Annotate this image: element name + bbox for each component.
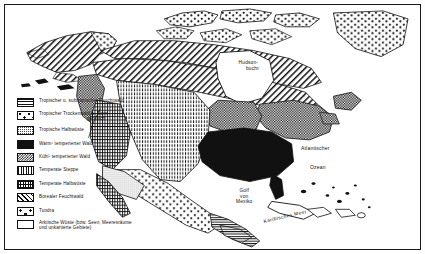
legend-item-temperate-semidesert[interactable]: Temperate Halbwüste <box>17 179 163 190</box>
legend-label: Borealer Feuchtwald <box>39 193 83 200</box>
label-atlantic-line1: Atlantischer <box>301 145 330 151</box>
legend-label: Tropische Halbwüste <box>39 126 84 133</box>
legend-label: Tundra <box>39 206 54 213</box>
legend-item-tropical-rainforest[interactable]: Tropischer u. subtropischer Feuchtwald <box>17 97 163 108</box>
vegetation-map-figure: Tropischer u. subtropischer Feuchtwald T… <box>0 0 425 254</box>
map-legend: Tropischer u. subtropischer Feuchtwald T… <box>17 97 163 235</box>
legend-label: Temperate Halbwüste <box>39 179 86 186</box>
legend-label: Warm- temperierter Wald <box>39 139 93 146</box>
swatch-horizontal-lines-icon <box>17 98 34 107</box>
legend-label-line2: und unkartierte Gebiete) <box>39 225 132 230</box>
label-hudson-line2: bucht <box>238 66 259 72</box>
legend-label: Tropischer u. subtropischer Feuchtwald <box>39 97 124 104</box>
legend-item-tropical-dry-forest[interactable]: Tropischer Trockenwald u. Dorn-gebüsch <box>17 110 163 123</box>
label-hudson-line1: Hudson- <box>239 60 259 65</box>
legend-item-cool-temperate-forest[interactable]: Kühl- temperierter Wald <box>17 153 163 164</box>
label-atlantic-line2: Ozean <box>301 152 330 171</box>
region-greenland <box>333 11 408 57</box>
label-atlantic-ocean: AtlantischerOzean <box>301 146 330 170</box>
swatch-diagonal-hatch-icon <box>17 193 34 202</box>
swatch-dense-checker-icon <box>17 153 34 162</box>
legend-item-boreal-forest[interactable]: Borealer Feuchtwald <box>17 193 163 204</box>
region-arctic-islands <box>156 9 319 45</box>
swatch-dot-cross-icon <box>17 111 34 120</box>
legend-item-tropical-semidesert[interactable]: Tropische Halbwüste <box>17 126 163 137</box>
label-gulf-of-mexico: Golf von Mexiko <box>236 188 252 205</box>
legend-label: Tropischer Trockenwald u. Dorn-gebüsch <box>39 110 109 121</box>
region-warm-temperate-forest <box>198 128 294 182</box>
swatch-solid-black-icon <box>17 140 34 149</box>
region-tropical-rainforest <box>210 213 260 247</box>
legend-item-arctic-desert[interactable]: Arktische Wüste (bzw. Seen, Meeresräumeu… <box>17 220 163 233</box>
map-frame: Tropischer u. subtropischer Feuchtwald T… <box>4 4 421 250</box>
legend-item-warm-temperate-forest[interactable]: Warm- temperierter Wald <box>17 139 163 150</box>
swatch-dense-grid-icon <box>17 180 34 189</box>
legend-label-line2: gebüsch <box>39 116 109 121</box>
legend-label: Kühl- temperierter Wald <box>39 153 90 160</box>
legend-item-tundra[interactable]: Tundra <box>17 206 163 217</box>
swatch-fine-stipple-icon <box>17 126 34 135</box>
swatch-sparse-dots-icon <box>17 207 34 216</box>
swatch-vertical-dashes-icon <box>17 166 34 175</box>
swatch-white-empty-icon <box>17 220 34 229</box>
legend-label: Temperate Steppe <box>39 166 78 173</box>
region-newfoundland <box>319 92 361 124</box>
region-florida <box>270 174 284 200</box>
legend-label: Arktische Wüste (bzw. Seen, Meeresräumeu… <box>39 220 132 231</box>
legend-item-temperate-steppe[interactable]: Temperate Steppe <box>17 166 163 177</box>
label-hudson-bay: Hudson-bucht <box>238 60 259 71</box>
